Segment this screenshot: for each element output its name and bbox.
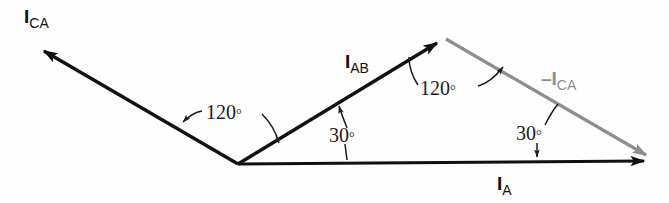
leader-120-right-to-iab [409,57,418,85]
vector-label-group: ICA IAB IA –ICA [24,6,577,198]
label-negative-i-ca: –ICA [541,68,577,93]
label-i-ca: ICA [24,6,49,31]
phasor-diagram-root: 120° 120° 30° 30° ICA IAB IA [0,0,669,203]
leader-120-left-to-ica [183,111,202,122]
vector-i-a [238,161,644,164]
angle-label-120-right: 120° [420,77,456,99]
angle-label-30-right: 30° [516,122,542,144]
vector-negative-i-ca [446,39,646,155]
angle-label-120-left: 120° [206,101,242,123]
angle-label-30-left: 30° [329,124,355,146]
label-i-ab: IAB [345,51,369,76]
phasor-diagram-canvas: 120° 120° 30° 30° ICA IAB IA [0,0,669,203]
label-i-a: IA [497,173,512,198]
leader-30-left-to-ia [345,144,347,160]
leader-30-right-to-neg-ica [545,104,558,125]
angle-label-group: 120° 120° 30° 30° [206,77,542,146]
